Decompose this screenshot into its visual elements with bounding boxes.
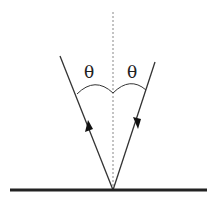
incident-angle-label: θ (84, 64, 94, 81)
diagram-graphics (0, 0, 220, 201)
reflected-angle-label: θ (127, 64, 137, 81)
reflection-diagram: θ θ (0, 0, 220, 201)
right-angle-arc (113, 84, 146, 93)
left-angle-arc (77, 85, 113, 94)
